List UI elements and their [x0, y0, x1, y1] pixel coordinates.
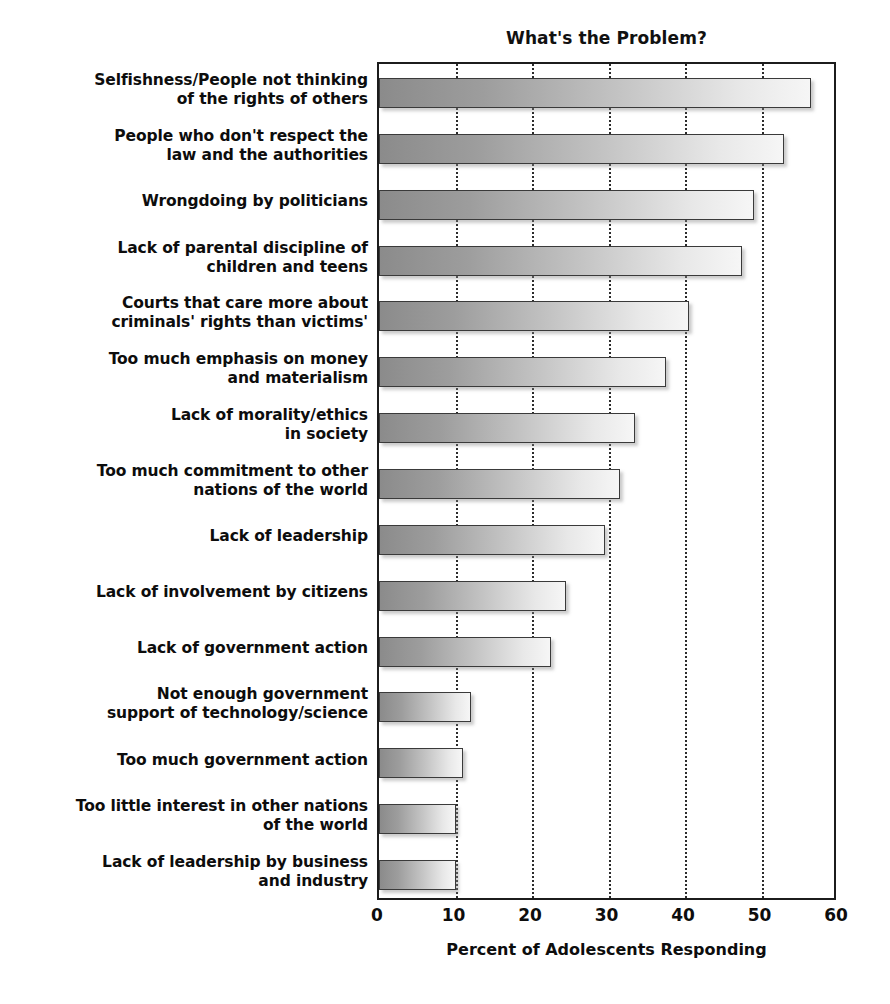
bar-row	[379, 78, 838, 108]
category-label: Courts that care more aboutcriminals' ri…	[8, 294, 368, 332]
bar-row	[379, 301, 838, 331]
bar-row	[379, 190, 838, 220]
category-label-line: children and teens	[8, 258, 368, 277]
x-tick-label: 30	[595, 905, 619, 925]
category-label-line: Courts that care more about	[8, 294, 368, 313]
category-label: People who don't respect thelaw and the …	[8, 127, 368, 165]
category-label: Lack of government action	[8, 639, 368, 658]
category-label-line: Wrongdoing by politicians	[8, 192, 368, 211]
category-label: Too little interest in other nationsof t…	[8, 797, 368, 835]
category-label: Selfishness/People not thinkingof the ri…	[8, 71, 368, 109]
bar-row	[379, 692, 838, 722]
category-label: Not enough governmentsupport of technolo…	[8, 685, 368, 723]
bar-chart: What's the Problem? Selfishness/People n…	[0, 0, 890, 1004]
bar-row	[379, 413, 838, 443]
bar	[379, 748, 463, 778]
bar-row	[379, 357, 838, 387]
bar	[379, 637, 551, 667]
category-label-line: law and the authorities	[8, 146, 368, 165]
category-label-line: Lack of involvement by citizens	[8, 583, 368, 602]
bar	[379, 190, 754, 220]
category-label: Wrongdoing by politicians	[8, 192, 368, 211]
x-axis-tick-labels: 0102030405060	[377, 905, 836, 931]
category-label-line: Lack of morality/ethics	[8, 406, 368, 425]
category-label-line: and industry	[8, 872, 368, 891]
category-label-line: People who don't respect the	[8, 127, 368, 146]
bar-row	[379, 525, 838, 555]
bar	[379, 357, 666, 387]
category-label-line: Lack of leadership by business	[8, 853, 368, 872]
category-label-line: nations of the world	[8, 481, 368, 500]
chart-title: What's the Problem?	[377, 28, 836, 48]
category-label: Lack of morality/ethicsin society	[8, 406, 368, 444]
category-label-line: Lack of government action	[8, 639, 368, 658]
category-label: Lack of involvement by citizens	[8, 583, 368, 602]
x-tick-label: 40	[671, 905, 695, 925]
x-tick-label: 20	[518, 905, 542, 925]
category-label-line: in society	[8, 425, 368, 444]
category-label-line: Not enough government	[8, 685, 368, 704]
x-tick-label: 50	[748, 905, 772, 925]
bar-row	[379, 860, 838, 890]
category-label-line: Too little interest in other nations	[8, 797, 368, 816]
bar-row	[379, 246, 838, 276]
x-tick-label: 10	[442, 905, 466, 925]
category-label-line: Selfishness/People not thinking	[8, 71, 368, 90]
category-label-line: Lack of leadership	[8, 527, 368, 546]
category-label: Lack of leadership by businessand indust…	[8, 853, 368, 891]
bar	[379, 692, 471, 722]
bar-row	[379, 134, 838, 164]
category-label-line: and materialism	[8, 369, 368, 388]
bar	[379, 860, 456, 890]
bar-row	[379, 637, 838, 667]
category-label-line: Too much commitment to other	[8, 462, 368, 481]
category-label: Lack of parental discipline ofchildren a…	[8, 239, 368, 277]
category-label: Too much commitment to othernations of t…	[8, 462, 368, 500]
category-label: Too much emphasis on moneyand materialis…	[8, 350, 368, 388]
x-tick-label: 60	[824, 905, 848, 925]
category-axis-labels: Selfishness/People not thinkingof the ri…	[0, 62, 368, 900]
bar-row	[379, 748, 838, 778]
bar	[379, 134, 784, 164]
x-tick-label: 0	[371, 905, 383, 925]
bar-row	[379, 581, 838, 611]
bar	[379, 301, 689, 331]
x-axis-title: Percent of Adolescents Responding	[377, 940, 836, 959]
bar	[379, 246, 742, 276]
category-label-line: criminals' rights than victims'	[8, 313, 368, 332]
category-label-line: support of technology/science	[8, 704, 368, 723]
category-label: Too much government action	[8, 751, 368, 770]
bar	[379, 413, 635, 443]
plot-area	[377, 62, 836, 900]
bar	[379, 78, 811, 108]
bar-row	[379, 804, 838, 834]
category-label-line: of the rights of others	[8, 90, 368, 109]
bar	[379, 469, 620, 499]
bar	[379, 581, 566, 611]
bar	[379, 525, 605, 555]
bar	[379, 804, 456, 834]
category-label-line: of the world	[8, 816, 368, 835]
category-label-line: Too much emphasis on money	[8, 350, 368, 369]
category-label: Lack of leadership	[8, 527, 368, 546]
category-label-line: Too much government action	[8, 751, 368, 770]
category-label-line: Lack of parental discipline of	[8, 239, 368, 258]
bar-row	[379, 469, 838, 499]
